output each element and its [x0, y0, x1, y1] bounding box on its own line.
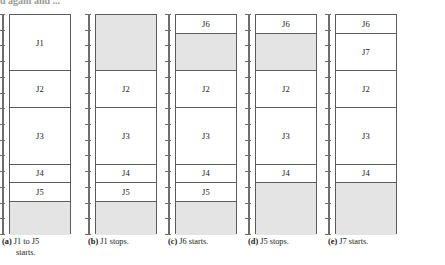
axis-tick — [245, 61, 251, 62]
axis-tick — [0, 140, 5, 141]
axis-tick — [85, 140, 91, 141]
axis-tick — [85, 77, 91, 78]
memory-block-label: J6 — [282, 19, 290, 29]
axis-tick — [0, 171, 5, 172]
panel-caption-text-2: starts. — [2, 247, 86, 258]
memory-block-label: J2 — [362, 84, 370, 94]
memory-column-a: J1J2J3J4J5 — [9, 14, 71, 234]
panel-caption-label: (c) — [168, 237, 177, 246]
axis-tick — [85, 187, 91, 188]
memory-block-j2: J2 — [176, 71, 236, 108]
axis-tick — [165, 171, 171, 172]
memory-block-free — [256, 183, 316, 235]
axis-tick — [325, 93, 331, 94]
axis-tick — [245, 171, 251, 172]
axis-tick — [165, 187, 171, 188]
memory-block-label: J5 — [202, 187, 210, 197]
axis-tick — [165, 155, 171, 156]
axis-tick — [165, 108, 171, 109]
memory-block-j4: J4 — [10, 165, 70, 184]
axis-tick — [325, 77, 331, 78]
memory-panel-c: J6J2J3J4J5 — [168, 12, 238, 265]
memory-block-label: J3 — [202, 131, 210, 141]
memory-block-label: J1 — [36, 38, 44, 48]
axis-tick — [165, 124, 171, 125]
memory-block-label: J2 — [36, 84, 44, 94]
memory-block-label: J7 — [362, 47, 370, 57]
memory-panel-d: J6J2J3J4 — [248, 12, 318, 265]
memory-block-j5: J5 — [10, 183, 70, 202]
axis-tick — [165, 93, 171, 94]
axis-tick — [325, 61, 331, 62]
memory-block-label: J2 — [202, 84, 210, 94]
axis-tick — [165, 30, 171, 31]
axis-tick — [325, 108, 331, 109]
axis-tick — [165, 61, 171, 62]
memory-block-j4: J4 — [256, 165, 316, 184]
memory-allocation-figure: J1J2J3J4J5(a) J1 to J5starts.J2J3J4J5(b)… — [0, 0, 445, 265]
axis-tick — [245, 93, 251, 94]
axis-tick — [245, 77, 251, 78]
memory-block-j4: J4 — [176, 165, 236, 184]
axis-tick — [85, 203, 91, 204]
memory-block-label: J6 — [202, 19, 210, 29]
axis-tick — [0, 108, 5, 109]
memory-column-e: J6J7J2J3J4 — [335, 14, 397, 234]
memory-block-label: J2 — [282, 84, 290, 94]
axis-tick — [325, 203, 331, 204]
panel-caption-label: (d) — [248, 237, 258, 246]
axis-tick — [325, 187, 331, 188]
axis-tick — [325, 218, 331, 219]
axis-tick — [85, 45, 91, 46]
axis-tick — [0, 30, 5, 31]
memory-block-j6: J6 — [336, 15, 396, 34]
axis-tick — [0, 124, 5, 125]
axis-tick — [165, 14, 171, 15]
memory-block-j4: J4 — [96, 165, 156, 184]
memory-block-j3: J3 — [96, 109, 156, 165]
axis-tick — [85, 14, 91, 15]
axis-tick — [245, 218, 251, 219]
axis-tick — [0, 218, 5, 219]
memory-axis-b — [88, 14, 90, 235]
axis-tick — [245, 140, 251, 141]
memory-block-j2: J2 — [10, 71, 70, 108]
axis-tick — [85, 108, 91, 109]
memory-block-free — [176, 202, 236, 235]
memory-block-j3: J3 — [256, 109, 316, 165]
axis-tick — [245, 124, 251, 125]
axis-tick — [245, 187, 251, 188]
panel-caption-a: (a) J1 to J5starts. — [2, 236, 86, 258]
axis-tick — [85, 30, 91, 31]
memory-axis-c — [168, 14, 170, 235]
memory-block-label: J5 — [122, 187, 130, 197]
memory-block-j2: J2 — [96, 71, 156, 108]
axis-tick — [245, 234, 251, 235]
memory-panel-e: J6J7J2J3J4 — [328, 12, 398, 265]
panel-caption-text: J6 starts. — [179, 237, 208, 246]
memory-block-free — [336, 183, 396, 235]
axis-tick — [165, 218, 171, 219]
panel-caption-d: (d) J5 stops. — [248, 236, 332, 247]
axis-tick — [245, 45, 251, 46]
axis-tick — [165, 203, 171, 204]
axis-tick — [85, 124, 91, 125]
memory-block-label: J4 — [122, 168, 130, 178]
memory-block-j4: J4 — [336, 165, 396, 184]
axis-tick — [325, 155, 331, 156]
axis-tick — [245, 155, 251, 156]
axis-tick — [325, 140, 331, 141]
memory-axis-e — [328, 14, 330, 235]
memory-block-label: J4 — [202, 168, 210, 178]
memory-panel-a: J1J2J3J4J5 — [2, 12, 72, 265]
memory-block-label: J4 — [282, 168, 290, 178]
axis-tick — [0, 234, 5, 235]
axis-tick — [325, 171, 331, 172]
axis-tick — [0, 77, 5, 78]
memory-block-j3: J3 — [336, 109, 396, 165]
memory-block-j3: J3 — [176, 109, 236, 165]
axis-tick — [325, 30, 331, 31]
memory-block-j7: J7 — [336, 34, 396, 71]
memory-block-j6: J6 — [176, 15, 236, 34]
memory-panel-b: J2J3J4J5 — [88, 12, 158, 265]
